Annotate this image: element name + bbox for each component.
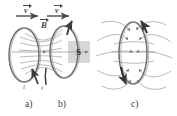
ring-left (9, 28, 41, 82)
velocity-label-left: v (24, 7, 28, 15)
surface-label: S (76, 48, 81, 57)
current-arrow-b-bottom (45, 68, 46, 85)
current-label-b-top: i (70, 22, 72, 29)
physics-figure: v v B S i i i a) b) c) (0, 0, 177, 116)
velocity-label-right: v (55, 7, 59, 15)
field-lines-c (96, 21, 172, 89)
current-label-b-bottom: i (41, 85, 43, 92)
panel-label-c: c) (131, 99, 138, 109)
current-label-a: i (23, 84, 25, 91)
panel-label-a: a) (25, 99, 32, 109)
panel-label-b: b) (58, 99, 66, 109)
magnetic-field-label: B (41, 21, 47, 30)
